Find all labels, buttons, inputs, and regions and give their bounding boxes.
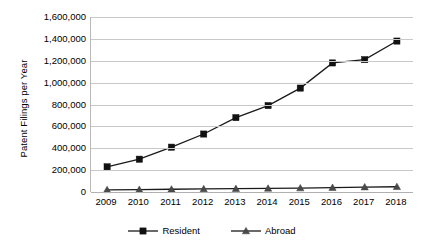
data-point-resident-2014 bbox=[265, 102, 271, 108]
data-point-resident-2012 bbox=[201, 131, 207, 137]
legend-marker-square-icon bbox=[127, 226, 159, 236]
gridline-200000 bbox=[91, 170, 413, 171]
gridline-1600000 bbox=[91, 17, 413, 18]
chart-legend: ResidentAbroad bbox=[0, 221, 423, 241]
y-tick-label: 800,000 bbox=[14, 100, 86, 110]
y-tick-label: 1,600,000 bbox=[14, 12, 86, 22]
gridline-1000000 bbox=[91, 83, 413, 84]
legend-marker-triangle-icon bbox=[230, 226, 262, 236]
y-tick-label: 200,000 bbox=[14, 165, 86, 175]
legend-label: Resident bbox=[162, 226, 200, 236]
series-line-abroad bbox=[107, 187, 397, 190]
data-point-resident-2015 bbox=[297, 85, 303, 91]
data-point-resident-2009 bbox=[104, 164, 110, 170]
y-tick-label: 400,000 bbox=[14, 144, 86, 154]
data-point-resident-2011 bbox=[168, 144, 174, 150]
y-tick-label: 600,000 bbox=[14, 122, 86, 132]
legend-item-resident[interactable]: Resident bbox=[127, 226, 200, 236]
data-point-resident-2017 bbox=[362, 57, 368, 63]
x-axis-tick-labels: 2009201020112012201320142015201620172018 bbox=[90, 196, 412, 212]
data-point-resident-2010 bbox=[136, 156, 142, 162]
gridline-400000 bbox=[91, 148, 413, 149]
gridline-800000 bbox=[91, 105, 413, 106]
gridline-1400000 bbox=[91, 39, 413, 40]
y-tick-label: 1,200,000 bbox=[14, 56, 86, 66]
gridline-0 bbox=[91, 192, 413, 193]
x-tick-label: 2018 bbox=[376, 196, 416, 207]
patent-filings-line-chart: Patent Filings per Year 0200,000400,0006… bbox=[0, 0, 423, 244]
plot-area bbox=[90, 17, 413, 192]
y-tick-label: 0 bbox=[14, 187, 86, 197]
y-tick-label: 1,000,000 bbox=[14, 78, 86, 88]
gridline-600000 bbox=[91, 126, 413, 127]
legend-label: Abroad bbox=[265, 226, 296, 236]
legend-item-abroad[interactable]: Abroad bbox=[230, 226, 296, 236]
gridline-1200000 bbox=[91, 61, 413, 62]
data-point-resident-2013 bbox=[233, 115, 239, 121]
y-tick-label: 1,400,000 bbox=[14, 34, 86, 44]
